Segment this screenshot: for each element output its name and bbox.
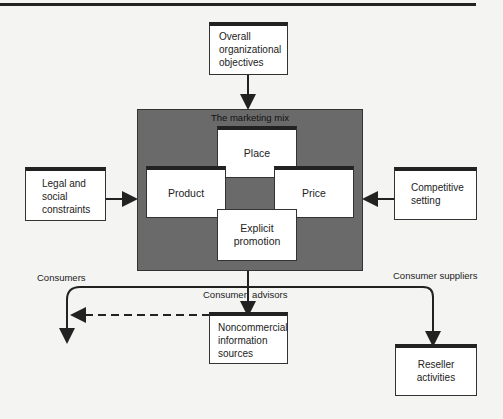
text-line: promotion [234,235,281,248]
marketing-mix-diagram: Overall organizational objectives The ma… [0,0,503,419]
overall-objectives-box: Overall organizational objectives [209,22,288,75]
text-line: social [42,190,89,203]
text-line: Competitive [411,181,460,194]
promotion-box: Explicit promotion [217,209,297,261]
text-line: organizational [219,43,278,56]
text-line: constraints [42,203,89,216]
marketing-mix-box: The marketing mix Place Product Price Ex… [137,109,363,271]
text-line: sources [218,347,279,360]
text-line: Reseller [404,358,468,371]
text-line: Noncommercial [218,321,279,334]
product-box: Product [146,166,226,218]
consumer-advisors-label: Consumer advisors [203,289,287,300]
mix-title: The marketing mix [138,112,362,123]
text-line: information [218,334,279,347]
competitive-setting-box: Competitive setting [394,167,477,220]
reseller-activities-box: Reseller activities [395,344,477,396]
text-line: setting [411,194,460,207]
text-line: activities [404,371,468,384]
consumers-label: Consumers [37,272,86,283]
text-line: Overall [219,30,278,43]
text-line: objectives [219,56,278,69]
consumer-suppliers-label: Consumer suppliers [393,270,477,281]
legal-social-box: Legal and social constraints [25,167,106,221]
noncommercial-sources-box: Noncommercial information sources [209,312,288,364]
text-line: Legal and [42,177,89,190]
text-line: Explicit [240,222,273,235]
